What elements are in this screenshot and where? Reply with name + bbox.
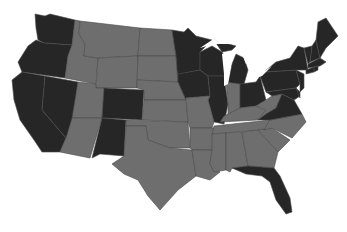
state-ri [314, 66, 318, 72]
us-map [0, 0, 347, 232]
state-ar [190, 128, 214, 150]
state-ms [210, 133, 226, 172]
state-me [316, 18, 338, 58]
state-wy [96, 56, 138, 88]
state-wa [35, 14, 75, 45]
state-or [18, 40, 72, 78]
state-ks [142, 100, 188, 122]
state-nd [138, 28, 176, 56]
state-co [102, 88, 144, 120]
state-sd [137, 56, 178, 82]
state-ny [264, 46, 308, 72]
state-mt [79, 21, 140, 58]
state-fl [232, 166, 292, 214]
